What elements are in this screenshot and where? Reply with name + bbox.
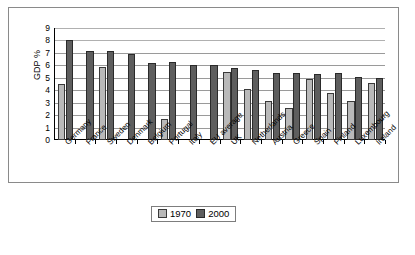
bar-2000	[231, 68, 238, 140]
bar-group	[55, 28, 76, 140]
bar-2000	[314, 74, 321, 140]
plot-area	[54, 28, 385, 140]
chart-legend: 1970 2000	[151, 206, 236, 222]
legend-swatch-2000-icon	[196, 209, 205, 218]
bar-chart-figure: GDP % 9876543210 GermanyFranceSwedenDenm…	[8, 7, 399, 183]
y-tick-label: 8	[36, 36, 50, 45]
y-tick-label: 9	[36, 24, 50, 33]
bar-1970	[244, 89, 251, 140]
bar-group	[200, 28, 221, 140]
bar-group	[303, 28, 324, 140]
bar-2000	[252, 70, 259, 140]
bar-1970	[58, 84, 65, 140]
bar-group	[324, 28, 345, 140]
legend-label-1970: 1970	[170, 209, 191, 219]
bar-2000	[293, 73, 300, 140]
legend-entry-1970: 1970	[158, 209, 191, 219]
y-tick-label: 1	[36, 123, 50, 132]
bar-2000	[273, 73, 280, 140]
y-axis-tick-labels: 9876543210	[36, 28, 50, 140]
y-tick-label: 0	[36, 136, 50, 145]
y-tick-label: 4	[36, 86, 50, 95]
y-tick-label: 7	[36, 49, 50, 58]
bar-2000	[210, 65, 217, 140]
bar-2000	[66, 40, 73, 140]
legend-swatch-1970-icon	[158, 209, 167, 218]
bar-series-container	[55, 28, 385, 140]
legend-label-2000: 2000	[208, 209, 229, 219]
x-axis-category-labels: GermanyFranceSwedenDenmarkBelgiumPortuga…	[55, 141, 390, 189]
y-tick-label: 5	[36, 74, 50, 83]
y-tick-label: 6	[36, 61, 50, 70]
bar-2000	[107, 51, 114, 140]
legend-entry-2000: 2000	[196, 209, 229, 219]
bar-group	[241, 28, 262, 140]
y-tick-label: 3	[36, 98, 50, 107]
y-tick-label: 2	[36, 111, 50, 120]
